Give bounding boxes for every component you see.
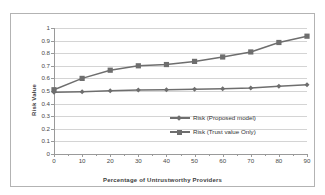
y-tick-label: 0.6 bbox=[28, 75, 50, 81]
chart-legend: Risk (Proposed model)Risk (Trust value O… bbox=[170, 114, 256, 142]
data-point-marker bbox=[220, 54, 225, 59]
legend-swatch bbox=[170, 128, 190, 136]
x-minor-tick-mark bbox=[293, 154, 294, 156]
y-axis-tick-labels: 00.10.20.30.40.50.60.70.80.91 bbox=[28, 28, 50, 154]
data-point-marker bbox=[304, 34, 309, 39]
data-point-marker bbox=[192, 59, 197, 64]
y-tick-label: 0.4 bbox=[28, 100, 50, 106]
data-point-marker bbox=[108, 68, 113, 73]
x-tick-label: 0 bbox=[52, 158, 55, 164]
y-tick-label: 0.8 bbox=[28, 50, 50, 56]
data-point-marker bbox=[220, 86, 225, 91]
legend-entry: Risk (Proposed model) bbox=[170, 114, 256, 122]
plot-wrapper: Risk Value 00.10.20.30.40.50.60.70.80.91… bbox=[11, 14, 314, 186]
legend-label: Risk (Trust value Only) bbox=[193, 129, 256, 135]
data-point-marker bbox=[248, 85, 253, 90]
y-tick-label: 0.1 bbox=[28, 138, 50, 144]
x-minor-tick-mark bbox=[181, 154, 182, 156]
x-tick-label: 20 bbox=[107, 158, 114, 164]
y-tick-label: 1 bbox=[28, 25, 50, 31]
y-tick-label: 0.3 bbox=[28, 113, 50, 119]
legend-entry: Risk (Trust value Only) bbox=[170, 128, 256, 136]
legend-diamond-marker-icon bbox=[176, 115, 182, 121]
y-tick-label: 0.2 bbox=[28, 126, 50, 132]
x-tick-label: 40 bbox=[163, 158, 170, 164]
x-minor-tick-mark bbox=[209, 154, 210, 156]
series-line bbox=[54, 36, 307, 90]
chart-figure: Risk Value 00.10.20.30.40.50.60.70.80.91… bbox=[10, 13, 315, 187]
x-tick-label: 10 bbox=[79, 158, 86, 164]
data-point-marker bbox=[136, 63, 141, 68]
x-tick-label: 90 bbox=[304, 158, 311, 164]
data-point-marker bbox=[164, 62, 169, 67]
x-tick-label: 50 bbox=[191, 158, 198, 164]
x-minor-tick-mark bbox=[96, 154, 97, 156]
data-point-marker bbox=[80, 89, 85, 94]
y-tick-label: 0.9 bbox=[28, 37, 50, 43]
x-minor-tick-mark bbox=[265, 154, 266, 156]
data-point-marker bbox=[305, 82, 310, 87]
x-axis-tick-labels: 0102030405060708090 bbox=[54, 158, 307, 168]
x-minor-tick-mark bbox=[237, 154, 238, 156]
data-point-marker bbox=[51, 87, 56, 92]
x-tick-label: 80 bbox=[275, 158, 282, 164]
x-axis-title: Percentage of Untrustworthy Providers bbox=[11, 177, 314, 183]
x-minor-tick-mark bbox=[68, 154, 69, 156]
legend-label: Risk (Proposed model) bbox=[193, 115, 256, 121]
data-point-marker bbox=[136, 88, 141, 93]
x-tick-label: 30 bbox=[135, 158, 142, 164]
series-1 bbox=[52, 82, 310, 95]
x-minor-tick-mark bbox=[124, 154, 125, 156]
data-point-marker bbox=[276, 40, 281, 45]
series-line bbox=[54, 85, 307, 93]
y-tick-label: 0.7 bbox=[28, 63, 50, 69]
x-tick-label: 60 bbox=[219, 158, 226, 164]
data-point-marker bbox=[276, 84, 281, 89]
series-2 bbox=[51, 34, 309, 93]
legend-swatch bbox=[170, 114, 190, 122]
data-point-marker bbox=[192, 87, 197, 92]
x-tick-label: 70 bbox=[247, 158, 254, 164]
y-tick-label: 0.5 bbox=[28, 88, 50, 94]
data-point-marker bbox=[164, 87, 169, 92]
x-minor-tick-mark bbox=[152, 154, 153, 156]
data-point-marker bbox=[108, 88, 113, 93]
legend-square-marker-icon bbox=[177, 130, 182, 135]
y-tick-label: 0 bbox=[28, 151, 50, 157]
data-point-marker bbox=[80, 76, 85, 81]
data-point-marker bbox=[248, 49, 253, 54]
